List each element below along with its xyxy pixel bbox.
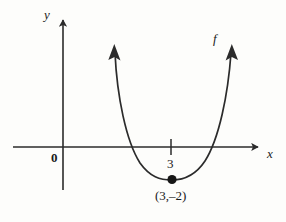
curve-left-arrowhead (108, 44, 120, 61)
origin-label: 0 (51, 151, 58, 164)
graph-canvas (0, 0, 286, 222)
curve-right-arrowhead (226, 44, 238, 61)
x-axis-label: x (267, 147, 273, 160)
vertex-point (167, 175, 176, 184)
x-tick-label-3: 3 (167, 157, 174, 170)
y-axis-label: y (44, 8, 50, 21)
curve-name-label: f (213, 32, 217, 45)
parabola-figure: y x f 0 3 (3,–2) (0, 0, 286, 222)
vertex-coordinate-label: (3,–2) (155, 189, 186, 202)
